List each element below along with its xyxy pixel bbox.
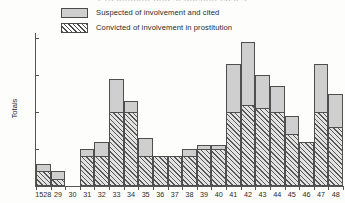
bar-30 [65, 33, 80, 186]
bar-segment-convicted-31 [80, 156, 95, 186]
bar-47 [314, 33, 329, 186]
bar-44 [270, 33, 285, 186]
bar-42 [241, 33, 256, 186]
bar-segment-convicted-34 [124, 112, 139, 186]
bar-segment-convicted-45 [285, 134, 300, 186]
bar-33 [109, 33, 124, 186]
x-tick-label-48: 48 [324, 190, 345, 199]
bar-segment-convicted-36 [153, 156, 168, 186]
bar-segment-convicted-33 [109, 112, 124, 186]
bar-48 [328, 33, 343, 186]
bar-segment-convicted-47 [314, 112, 329, 186]
bar-segment-convicted-46 [299, 142, 314, 186]
bar-segment-convicted-48 [328, 127, 343, 186]
x-axis-line [35, 186, 343, 187]
x-tick-origin [36, 186, 37, 190]
bar-41 [226, 33, 241, 186]
bar-segment-convicted-32 [94, 156, 109, 186]
bar-36 [153, 33, 168, 186]
bar-31 [80, 33, 95, 186]
bar-39 [197, 33, 212, 186]
bar-segment-convicted-40 [211, 149, 226, 186]
bar-45 [285, 33, 300, 186]
bar-43 [255, 33, 270, 186]
bar-segment-convicted-37 [168, 156, 183, 186]
chart-figure: Prostitution and seduction cases Suspect… [0, 0, 345, 203]
bar-segment-convicted-41 [226, 112, 241, 186]
bar-segment-convicted-1528 [36, 171, 51, 186]
bar-segment-convicted-38 [182, 156, 197, 186]
bar-segment-convicted-42 [241, 105, 256, 186]
bar-29 [51, 33, 66, 186]
bar-40 [211, 33, 226, 186]
bar-34 [124, 33, 139, 186]
bar-segment-convicted-39 [197, 149, 212, 186]
bar-segment-convicted-35 [138, 156, 153, 186]
y-axis-title: Totals [10, 79, 19, 139]
bar-segment-convicted-29 [51, 179, 66, 186]
bar-1528 [36, 33, 51, 186]
bar-segment-convicted-44 [270, 112, 285, 186]
bar-segment-convicted-43 [255, 108, 270, 186]
bar-37 [168, 33, 183, 186]
plot-area: Totals 5101520 1528293031323334353637383… [0, 0, 345, 203]
bar-32 [94, 33, 109, 186]
bar-46 [299, 33, 314, 186]
bar-series-group [36, 33, 343, 186]
bar-38 [182, 33, 197, 186]
bar-35 [138, 33, 153, 186]
